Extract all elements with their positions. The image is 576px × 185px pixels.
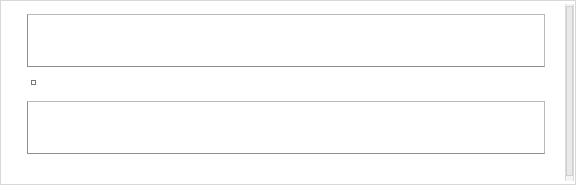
top-plot-legend[interactable]	[31, 80, 38, 85]
square-marker-icon	[31, 80, 36, 85]
bottom-plot-canvas	[27, 101, 545, 154]
probe-waveform-window	[0, 0, 576, 185]
bottom-plot-db-vout[interactable]	[27, 101, 545, 154]
top-plot-canvas	[27, 14, 545, 67]
vertical-scrollbar-thumb[interactable]	[566, 6, 573, 176]
top-plot-centerfrequency[interactable]	[27, 14, 545, 67]
